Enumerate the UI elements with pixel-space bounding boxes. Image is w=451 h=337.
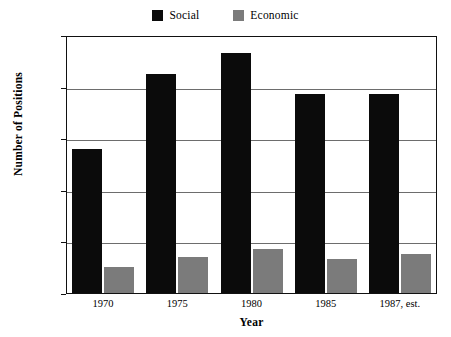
bar-chart: Social Economic Number of Positions 110,…: [0, 0, 451, 337]
legend-item-social: Social: [152, 9, 199, 21]
bar-economic-1987: [401, 254, 431, 293]
bar-economic-1980: [253, 249, 283, 293]
y-axis-title: Number of Positions: [12, 64, 24, 184]
gray-square-swatch: [233, 10, 244, 21]
bar-social-1970: [72, 149, 102, 293]
legend-label-economic: Economic: [250, 9, 298, 21]
bars-layer: [67, 37, 436, 293]
bar-social-1980: [221, 53, 251, 293]
plot-area: [66, 36, 437, 294]
x-tick-label: 1985: [289, 298, 363, 310]
x-tick-label: 1975: [140, 298, 214, 310]
bar-social-1985: [295, 94, 325, 293]
x-axis-title: Year: [66, 316, 437, 328]
chart-legend: Social Economic: [0, 9, 451, 21]
legend-label-social: Social: [169, 9, 199, 21]
legend-item-economic: Economic: [233, 9, 298, 21]
bar-economic-1970: [104, 267, 134, 293]
x-tick-label: 1970: [66, 298, 140, 310]
x-tick-label: 1980: [214, 298, 288, 310]
bar-economic-1985: [327, 259, 357, 293]
black-square-swatch: [152, 10, 163, 21]
x-tick-label: 1987, est.: [363, 298, 437, 310]
bar-social-1975: [146, 74, 176, 293]
y-tick-mark: [61, 294, 66, 295]
bar-economic-1975: [178, 257, 208, 293]
bar-social-1987: [369, 94, 399, 293]
